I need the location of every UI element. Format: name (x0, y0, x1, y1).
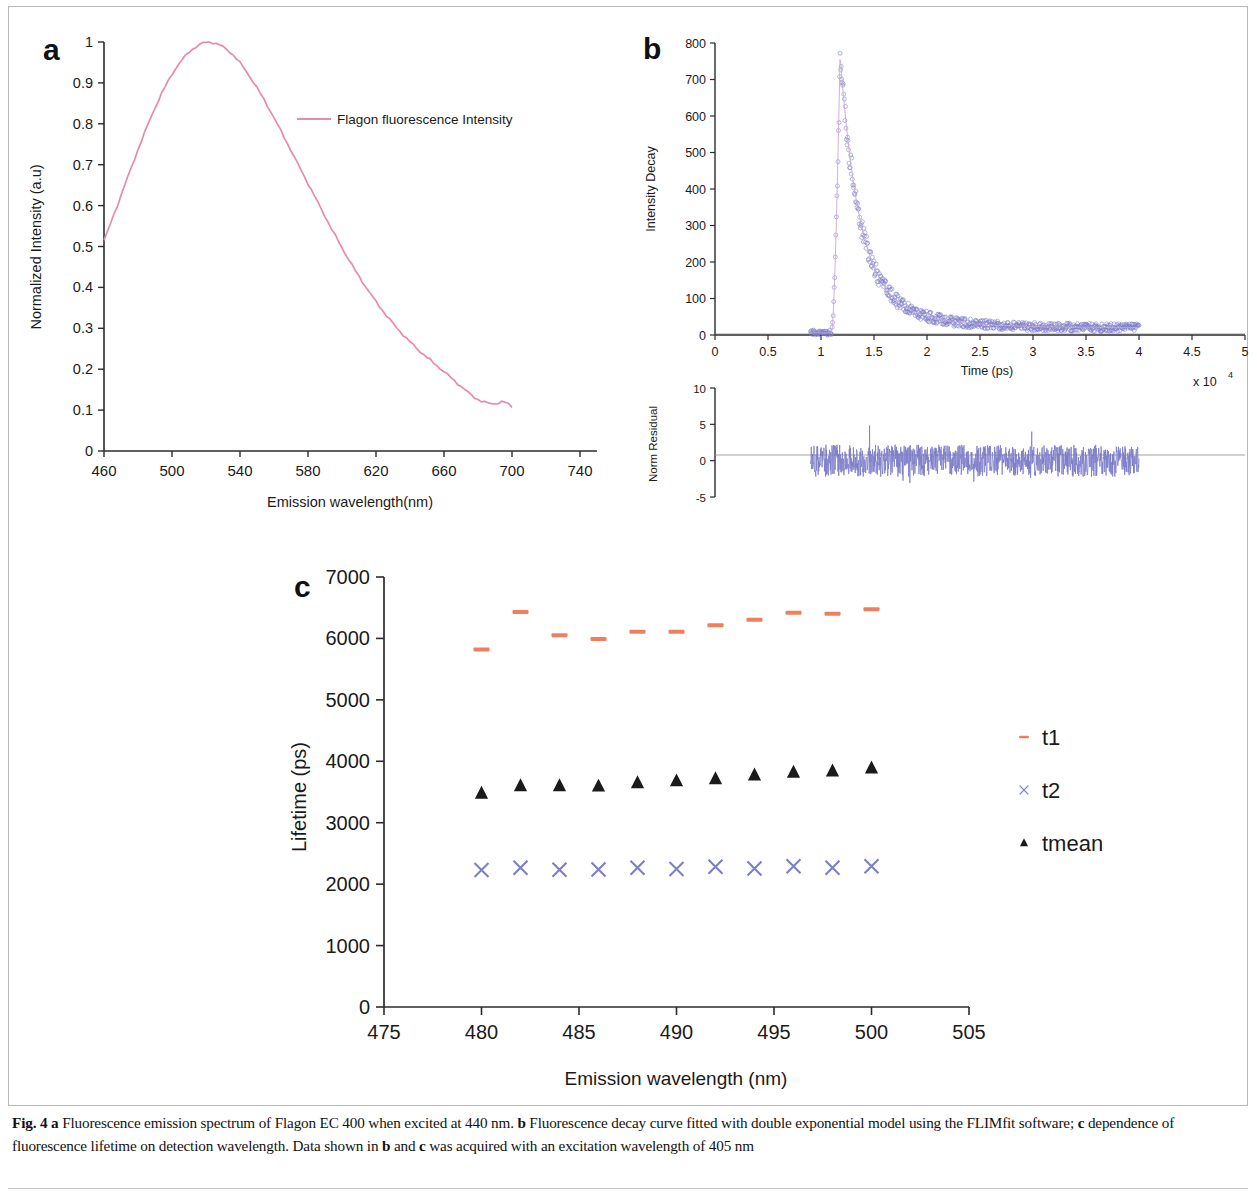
panel-c-marker-tmean (748, 768, 761, 781)
panel-c-y-tick-label: 4000 (326, 750, 371, 772)
panel-c-marker-t2 (826, 861, 840, 875)
panel-c-marker-t1 (747, 618, 763, 622)
panel-b-residual-trace (810, 426, 1139, 483)
panel-c: c 01000200030004000500060007000 47548048… (264, 547, 1249, 1107)
panel-c-letter: c (294, 570, 311, 603)
panel-b-residual-y-tick-label: 0 (700, 455, 706, 467)
panel-c-marker-tmean (1020, 838, 1028, 846)
panel-b-y-tick-label: 500 (685, 146, 706, 160)
panel-b-x-tick-label: 3.5 (1077, 345, 1094, 359)
panel-a-y-tick-label: 0.4 (73, 279, 93, 295)
panel-b-residual-y-tick-label: 5 (700, 419, 706, 431)
panel-b-x-ticks: 00.511.522.533.544.55 (712, 335, 1249, 359)
caption-segment-2: a (51, 1114, 58, 1131)
panel-b-x-tick-label: 2.5 (971, 345, 988, 359)
panel-a-emission-curve (104, 42, 512, 407)
panel-a-x-tick-label: 620 (363, 462, 388, 479)
panel-c-marker-tmean (670, 773, 683, 786)
panel-b-y-tick-label: 400 (685, 183, 706, 197)
panel-c-marker-t2 (475, 863, 489, 877)
panel-c-y-tick-label: 7000 (326, 566, 371, 588)
panel-c-y-axis-title: Lifetime (ps) (288, 742, 310, 852)
panel-b-x-tick-label: 3 (1030, 345, 1037, 359)
caption-segment-4: b (517, 1114, 525, 1131)
panel-c-x-tick-label: 475 (367, 1021, 400, 1043)
caption-segment-3: Fluorescence emission spectrum of Flagon… (59, 1114, 518, 1131)
panel-c-marker-tmean (475, 786, 488, 799)
bottom-divider (8, 1188, 1248, 1189)
panel-b-x-axis-title: Time (ps) (961, 364, 1013, 378)
caption-segment-5: Fluorescence decay curve fitted with dou… (526, 1114, 1078, 1131)
panel-c-legend-label: tmean (1042, 831, 1103, 856)
panel-a-legend-label: Flagon fluorescence Intensity (337, 112, 513, 127)
panel-c-marker-t1 (630, 630, 646, 634)
panel-b-residual-y-ticks: -50510 (693, 383, 715, 504)
panel-c-x-tick-label: 490 (660, 1021, 693, 1043)
panel-a-legend: Flagon fluorescence Intensity (297, 112, 513, 127)
panel-c-y-tick-label: 0 (359, 996, 370, 1018)
panel-a-x-ticks: 460500540580620660700740 (91, 451, 592, 479)
panel-b-residual-y-axis-title: Norm Residual (647, 406, 659, 482)
panel-c-y-tick-label: 3000 (326, 812, 371, 834)
panel-b-y-ticks: 0100200300400500600700800 (685, 37, 715, 343)
panel-c-legend-label: t1 (1042, 725, 1060, 750)
panel-b-y-tick-label: 200 (685, 256, 706, 270)
panel-c-marker-tmean (787, 765, 800, 778)
panel-b-x-tick-label: 1 (818, 345, 825, 359)
panel-a-y-tick-label: 0.2 (73, 361, 93, 377)
panel-c-axes (384, 577, 969, 1007)
panel-b-exponent-base: x 10 (1193, 375, 1217, 389)
panel-b-y-tick-label: 0 (699, 329, 706, 343)
panel-a-x-tick-label: 500 (159, 462, 184, 479)
panel-c-marker-t2 (865, 859, 879, 873)
panel-b-fit-line (810, 60, 1139, 333)
panel-c-marker-t2 (787, 859, 801, 873)
panel-c-x-tick-label: 500 (855, 1021, 888, 1043)
panel-b-y-tick-label: 100 (685, 292, 706, 306)
panel-c-x-ticks: 475480485490495500505 (367, 1007, 985, 1043)
panel-b-svg: b 0100200300400500600700800 00.511.522.5… (627, 7, 1249, 527)
panel-b-y-axis-title: Intensity Decay (644, 146, 658, 232)
panel-c-data-points (474, 607, 880, 877)
panel-a-axes (104, 42, 597, 451)
panel-c-x-tick-label: 495 (757, 1021, 790, 1043)
caption-segment-10: c (419, 1137, 426, 1154)
panel-c-y-tick-label: 6000 (326, 627, 371, 649)
panel-c-marker-tmean (865, 761, 878, 774)
panel-a-y-axis-title: Normalized Intensity (a.u) (28, 164, 44, 329)
panel-c-marker-t1 (591, 637, 607, 641)
panel-b-x-tick-label: 5 (1242, 345, 1249, 359)
panel-c-marker-t2 (592, 862, 606, 876)
panel-c-y-tick-label: 2000 (326, 873, 371, 895)
panel-c-marker-tmean (553, 778, 566, 791)
panel-a-y-tick-label: 0.5 (73, 239, 93, 255)
panel-c-marker-t1 (786, 611, 802, 615)
panel-c-marker-t2 (709, 860, 723, 874)
figure-caption: Fig. 4 a Fluorescence emission spectrum … (12, 1112, 1248, 1158)
panel-c-marker-t1 (552, 633, 568, 637)
panel-c-marker-t2 (670, 862, 684, 876)
panel-b-x-tick-label: 4.5 (1183, 345, 1200, 359)
caption-segment-9: and (390, 1137, 419, 1154)
figure-frame: a 00.10.20.30.40.50.60.70.80.91 46050054… (8, 6, 1248, 1106)
panel-c-marker-t1 (708, 623, 724, 627)
panel-a-y-tick-label: 0.8 (73, 116, 93, 132)
panel-c-marker-tmean (826, 764, 839, 777)
panel-c-marker-t2 (514, 861, 528, 875)
panel-c-marker-t2 (631, 861, 645, 875)
panel-c-marker-t1 (513, 610, 529, 614)
panel-a-x-axis-title: Emission wavelength(nm) (267, 494, 433, 510)
panel-b-y-tick-label: 700 (685, 73, 706, 87)
panel-c-marker-t2 (1020, 786, 1029, 795)
panel-c-marker-t1 (825, 612, 841, 616)
panel-b-letter: b (643, 32, 661, 65)
panel-c-x-axis-title: Emission wavelength (nm) (565, 1068, 788, 1089)
panel-c-marker-t1 (1019, 736, 1029, 738)
panel-c-svg: c 01000200030004000500060007000 47548048… (264, 547, 1249, 1107)
panel-b-x-tick-label: 4 (1136, 345, 1143, 359)
panel-a-svg: a 00.10.20.30.40.50.60.70.80.91 46050054… (9, 7, 629, 527)
panel-b-x-tick-label: 0 (712, 345, 719, 359)
panel-a-y-tick-label: 0.1 (73, 402, 93, 418)
panel-c-marker-tmean (514, 778, 527, 791)
panel-a-y-tick-label: 0.6 (73, 198, 93, 214)
